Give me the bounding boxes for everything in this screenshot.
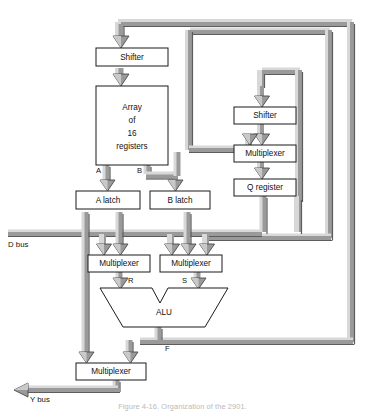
block-a-latch: A latch [76,191,140,209]
block-output-multiplexer: Multiplexer [76,363,146,380]
bus-q-shifter-column [243,86,270,179]
alu-label: ALU [156,308,172,317]
block-right-multiplexer: Multiplexer [160,255,222,272]
block-q-shifter: Shifter [234,107,296,124]
a-port-label: A [96,166,102,175]
bus-shifter-to-array [113,68,129,86]
b-latch-label: B latch [167,196,192,205]
output-multiplexer-label: Multiplexer [91,367,131,376]
a-latch-label: A latch [96,196,121,205]
b-port-label: B [137,166,142,175]
r-input-label: R [128,276,134,285]
register-array-label-4: registers [116,142,147,151]
register-array-label-3: 16 [127,129,137,138]
block-q-register: Q register [234,179,296,196]
block-top-shifter: Shifter [96,48,168,66]
block-register-array: Array of 16 registers [96,86,168,165]
bus-left-mux-to-alu-r [113,272,128,289]
left-multiplexer-label: Multiplexer [99,259,139,268]
figure-caption: Figure 4-16. Organization of the 2901. [0,402,365,411]
block-alu: ALU [100,288,228,327]
bus-alu-f-output [157,327,162,340]
register-array-label-1: Array [122,103,142,112]
s-input-label: S [182,276,187,285]
datapath-schematic: Shifter Array of 16 registers A B A latc… [0,0,365,417]
bus-f-to-output-mux [123,340,138,363]
q-shifter-label: Shifter [253,111,277,120]
right-multiplexer-label: Multiplexer [171,259,211,268]
bus-a-port-to-a-latch [100,165,115,191]
top-shifter-label: Shifter [120,53,144,62]
register-array-label-2: of [129,116,137,125]
q-register-label: Q register [247,183,283,192]
q-multiplexer-label: Multiplexer [245,149,285,158]
block-left-multiplexer: Multiplexer [88,255,150,272]
bus-b-port-to-q-path [176,152,179,176]
bus-right-mux-to-alu-s [191,272,206,289]
bus-d-tap-right-mux [165,234,180,255]
figure-diagram: Shifter Array of 16 registers A B A latc… [0,0,365,417]
f-output-label: F [165,344,170,353]
bus-d-bus-rail [8,232,262,237]
block-q-multiplexer: Multiplexer [234,145,296,162]
block-b-latch: B latch [150,191,210,209]
d-bus-label: D bus [8,240,28,249]
bus-d-tap-left-mux [97,234,112,255]
